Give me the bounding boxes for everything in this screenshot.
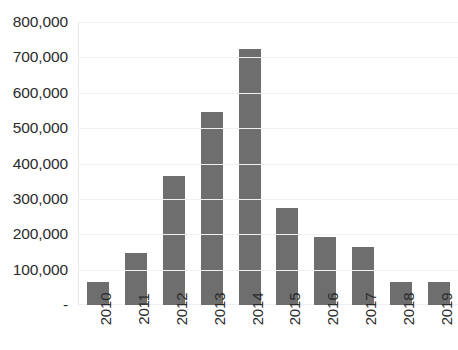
bar-2012[interactable] — [163, 176, 185, 305]
gridline — [79, 270, 458, 271]
x-axis-slot: 2017 — [343, 307, 381, 350]
x-axis-slot: 2018 — [381, 307, 419, 350]
x-axis-tick-label: 2019 — [438, 293, 455, 326]
y-axis: 800,000700,000600,000500,000400,000300,0… — [0, 0, 74, 350]
y-axis-tick-label: - — [63, 296, 68, 314]
x-axis-slot: 2019 — [419, 307, 457, 350]
x-axis-slot: 2014 — [230, 307, 268, 350]
gridline — [79, 199, 458, 200]
y-axis-tick-label: 100,000 — [13, 261, 68, 279]
y-axis-tick-label: 200,000 — [13, 225, 68, 243]
gridline — [79, 128, 458, 129]
gridline — [79, 22, 458, 23]
gridline — [79, 234, 458, 235]
bar-2015[interactable] — [276, 208, 298, 305]
x-axis-tick-label: 2011 — [135, 293, 152, 324]
y-axis-tick-label: 500,000 — [13, 119, 68, 137]
x-axis-slot: 2012 — [154, 307, 192, 350]
y-axis-tick-label: 400,000 — [13, 155, 68, 173]
bar-2013[interactable] — [201, 112, 223, 305]
x-axis-slot: 2011 — [116, 307, 154, 350]
x-axis-slot: 2015 — [268, 307, 306, 350]
y-axis-tick-label: 300,000 — [13, 190, 68, 208]
x-axis-tick-label: 2017 — [362, 293, 379, 326]
gridline — [79, 164, 458, 165]
x-axis-tick-label: 2018 — [400, 293, 417, 326]
bar-2014[interactable] — [239, 49, 261, 305]
x-axis-slot: 2010 — [78, 307, 116, 350]
y-axis-tick-label: 700,000 — [13, 48, 68, 66]
plot-area — [78, 22, 458, 305]
x-axis-tick-label: 2010 — [97, 293, 114, 326]
gridline — [79, 57, 458, 58]
x-axis-tick-label: 2016 — [324, 293, 341, 326]
x-axis: 2010201120122013201420152016201720182019 — [78, 307, 457, 350]
y-axis-tick-label: 800,000 — [13, 13, 68, 31]
x-axis-tick-label: 2014 — [249, 293, 266, 326]
x-axis-slot: 2013 — [192, 307, 230, 350]
x-axis-slot: 2016 — [305, 307, 343, 350]
y-axis-tick-label: 600,000 — [13, 84, 68, 102]
x-axis-tick-label: 2012 — [173, 293, 190, 326]
x-axis-tick-label: 2015 — [286, 293, 303, 326]
gridline — [79, 93, 458, 94]
x-axis-tick-label: 2013 — [211, 293, 228, 326]
